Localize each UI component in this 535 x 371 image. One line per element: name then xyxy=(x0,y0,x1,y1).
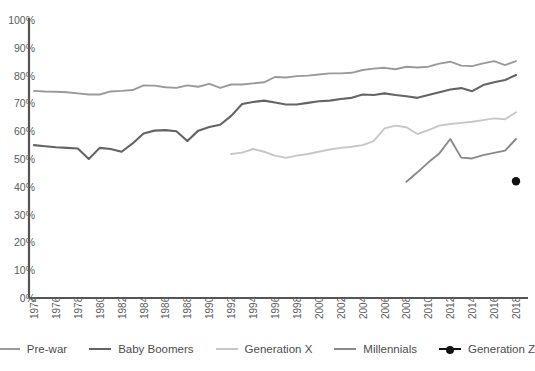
legend-item-pre-war[interactable]: Pre-war xyxy=(0,343,67,355)
y-tick-label: 80% xyxy=(0,71,35,81)
y-tick-label: 20% xyxy=(0,237,35,247)
x-tick-label: 2000 xyxy=(314,305,325,319)
x-tick-label: 1978 xyxy=(73,305,84,319)
x-tick-label: 1976 xyxy=(51,305,62,319)
legend-swatch-icon xyxy=(439,348,461,350)
y-tick-label: 40% xyxy=(0,182,35,192)
x-tick-label: 1982 xyxy=(117,305,128,319)
y-tick-label: 70% xyxy=(0,98,35,108)
x-tick-label: 1986 xyxy=(160,305,171,319)
x-tick-label: 1998 xyxy=(292,305,303,319)
series-line-pre-war xyxy=(34,61,516,94)
x-tick-label: 1990 xyxy=(204,305,215,319)
x-tick-label: 1974 xyxy=(29,305,40,319)
x-tick-label: 2012 xyxy=(445,305,456,319)
x-tick-label: 1994 xyxy=(248,305,259,319)
legend-item-baby-boomers[interactable]: Baby Boomers xyxy=(89,343,193,355)
series-point-generation-z xyxy=(512,177,520,185)
x-tick-label: 2016 xyxy=(489,305,500,319)
x-tick-label: 2006 xyxy=(380,305,391,319)
legend-swatch-icon xyxy=(0,348,20,350)
x-tick-label: 2010 xyxy=(423,305,434,319)
y-tick-label: 30% xyxy=(0,210,35,220)
legend-label: Generation Z xyxy=(468,343,535,355)
x-tick-label: 1996 xyxy=(270,305,281,319)
series-line-generation-x xyxy=(231,112,516,158)
x-tick-label: 1984 xyxy=(139,305,150,319)
plot-area xyxy=(0,0,533,333)
legend-item-generation-z[interactable]: Generation Z xyxy=(439,343,535,355)
legend-swatch-icon xyxy=(216,348,238,350)
series-line-millennials xyxy=(406,139,516,182)
y-tick-label: 10% xyxy=(0,265,35,275)
y-tick-label: 50% xyxy=(0,154,35,164)
legend-label: Pre-war xyxy=(27,343,67,355)
legend-label: Baby Boomers xyxy=(118,343,193,355)
legend-item-generation-x[interactable]: Generation X xyxy=(216,343,313,355)
legend-item-millennials[interactable]: Millennials xyxy=(334,343,417,355)
legend-swatch-icon xyxy=(89,348,111,350)
y-tick-label: 100% xyxy=(0,15,35,25)
y-tick-label: 90% xyxy=(0,43,35,53)
x-tick-label: 2018 xyxy=(511,305,522,319)
chart-legend: Pre-warBaby BoomersGeneration XMillennia… xyxy=(0,338,533,360)
legend-label: Millennials xyxy=(363,343,417,355)
legend-swatch-icon xyxy=(334,348,356,350)
x-tick-label: 2002 xyxy=(336,305,347,319)
x-tick-label: 1980 xyxy=(95,305,106,319)
chart-axes xyxy=(29,18,528,298)
y-tick-label: 60% xyxy=(0,126,35,136)
legend-label: Generation X xyxy=(245,343,313,355)
x-tick-label: 1992 xyxy=(226,305,237,319)
x-tick-label: 2014 xyxy=(467,305,478,319)
x-tick-label: 2008 xyxy=(401,305,412,319)
x-tick-label: 2004 xyxy=(358,305,369,319)
x-tick-label: 1988 xyxy=(182,305,193,319)
chart-series xyxy=(34,61,520,185)
